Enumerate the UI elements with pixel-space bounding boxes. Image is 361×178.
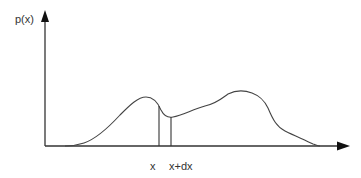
x-plus-dx-marker-label: x+dx — [169, 161, 193, 172]
x-marker-label: x — [150, 161, 156, 172]
y-axis-label: p(x) — [15, 14, 34, 25]
x-axis-arrow-icon — [337, 142, 350, 151]
density-curve — [65, 91, 320, 146]
density-diagram — [0, 0, 361, 178]
y-axis-arrow-icon — [41, 10, 49, 22]
